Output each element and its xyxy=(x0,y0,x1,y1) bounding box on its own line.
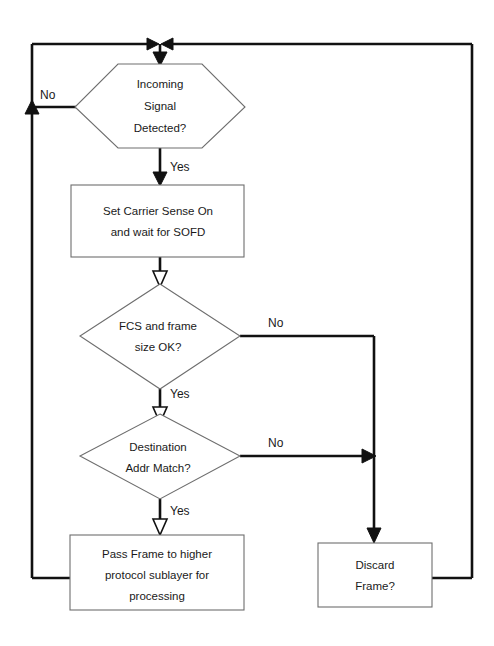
node-fcs-check-line1: FCS and frame xyxy=(119,320,197,332)
edge-label-dest-yes: Yes xyxy=(170,504,190,518)
node-dest-addr-shape[interactable] xyxy=(80,414,240,499)
node-pass-frame-line1: Pass Frame to higher xyxy=(102,548,212,560)
node-discard-frame-line1: Discard xyxy=(356,559,395,571)
node-discard-frame-shape[interactable] xyxy=(318,543,432,607)
node-dest-addr-line2: Addr Match? xyxy=(125,462,190,474)
node-set-carrier-line2: and wait for SOFD xyxy=(111,226,206,238)
node-incoming-signal-line1: Incoming xyxy=(137,78,184,90)
edge-label-fcs-no: No xyxy=(268,316,284,330)
arrowhead-top-junction-from-right xyxy=(161,38,173,50)
node-incoming-signal-line3: Detected? xyxy=(134,122,186,134)
node-fcs-check-shape[interactable] xyxy=(80,284,240,389)
node-discard-frame-line2: Frame? xyxy=(355,580,395,592)
flowchart-svg: Incoming Signal Detected? Set Carrier Se… xyxy=(0,0,494,646)
edge-label-dest-no: No xyxy=(268,436,284,450)
node-set-carrier-shape[interactable] xyxy=(71,185,244,257)
node-set-carrier-line1: Set Carrier Sense On xyxy=(103,205,213,217)
edge-label-signal-no: No xyxy=(40,88,56,102)
flowchart-canvas: Incoming Signal Detected? Set Carrier Se… xyxy=(0,0,494,646)
node-pass-frame-line2: protocol sublayer for xyxy=(105,569,209,581)
node-pass-frame-line3: processing xyxy=(129,590,185,602)
node-fcs-check-line2: size OK? xyxy=(135,341,182,353)
arrowhead-into-passframe xyxy=(153,519,167,535)
edge-label-signal-yes: Yes xyxy=(170,160,190,174)
arrowhead-top-junction-from-left xyxy=(147,38,159,50)
arrowhead-into-set-carrier xyxy=(153,172,167,186)
node-incoming-signal-line2: Signal xyxy=(144,100,176,112)
node-dest-addr-line1: Destination xyxy=(129,441,187,453)
edge-label-fcs-yes: Yes xyxy=(170,387,190,401)
arrowhead-into-discard xyxy=(367,528,381,543)
